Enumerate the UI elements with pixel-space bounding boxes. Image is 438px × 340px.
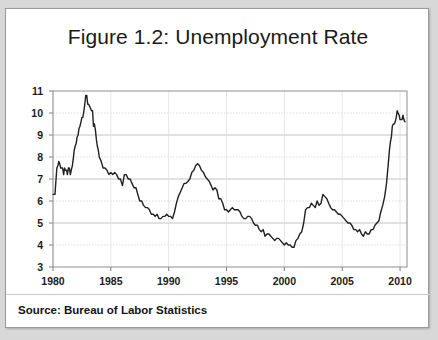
y-axis-tick-label: 7 xyxy=(21,173,43,185)
y-axis-tick-label: 5 xyxy=(21,217,43,229)
x-axis-tick-label: 1980 xyxy=(33,275,73,287)
x-axis-tick-label: 2010 xyxy=(380,275,420,287)
x-axis-tick-label: 1990 xyxy=(149,275,189,287)
x-axis-tick-label: 1985 xyxy=(91,275,131,287)
chart-container: 34567891011 1980198519901995200020052010 xyxy=(6,9,430,299)
source-footer: Source: Bureau of Labor Statistics xyxy=(6,294,430,327)
y-axis-tick-label: 3 xyxy=(21,261,43,273)
x-axis-tick-label: 2005 xyxy=(322,275,362,287)
source-note: Source: Bureau of Labor Statistics xyxy=(18,304,207,316)
y-axis-tick-label: 10 xyxy=(21,107,43,119)
figure-card: Figure 1.2: Unemployment Rate 3456789101… xyxy=(5,8,429,328)
x-axis-tick-label: 2000 xyxy=(264,275,304,287)
unemployment-rate-line xyxy=(53,95,405,247)
unemployment-rate-line-chart xyxy=(6,9,430,299)
axis-ticks-group xyxy=(49,91,400,271)
y-axis-tick-label: 4 xyxy=(21,239,43,251)
gridlines-group xyxy=(53,91,407,267)
y-axis-tick-label: 11 xyxy=(21,85,43,97)
y-axis-tick-label: 6 xyxy=(21,195,43,207)
y-axis-tick-label: 9 xyxy=(21,129,43,141)
x-axis-tick-label: 1995 xyxy=(207,275,247,287)
y-axis-tick-label: 8 xyxy=(21,151,43,163)
